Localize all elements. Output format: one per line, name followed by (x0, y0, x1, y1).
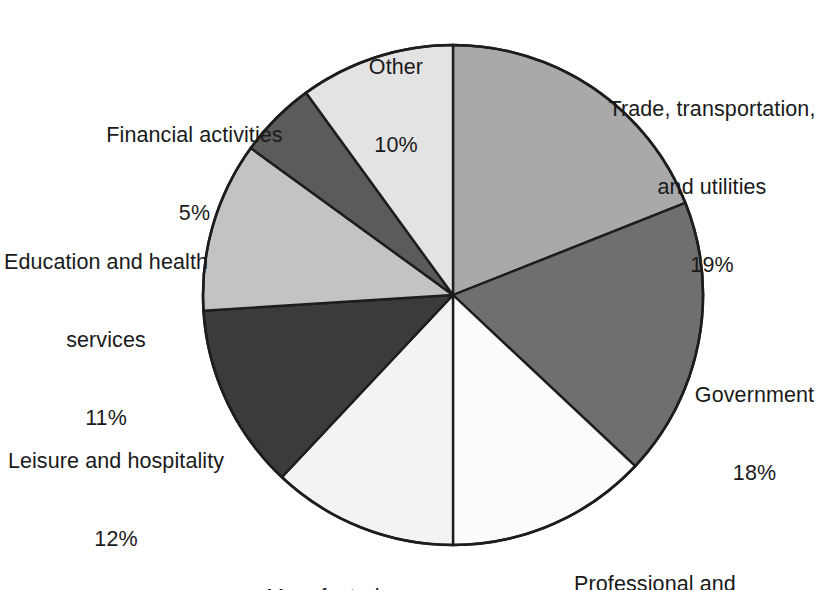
slice-label-trade-name-line1: Trade, transportation, (596, 96, 828, 122)
slice-label-trade-value: 19% (596, 252, 828, 278)
slice-label-education-value: 11% (0, 405, 212, 431)
slice-label-manufacturing-name: Manufacturing (218, 584, 452, 590)
slice-label-other-value: 10% (296, 132, 496, 158)
slice-label-government: Government 18% (680, 330, 829, 538)
slice-label-government-name: Government (680, 382, 829, 408)
slice-label-professional-name-line1: Professional and (540, 571, 770, 590)
slice-label-professional: Professional and business services 13% (540, 519, 770, 590)
slice-label-education-name-line2: services (0, 327, 212, 353)
slice-label-trade-name-line2: and utilities (596, 174, 828, 200)
pie-chart: Other 10% Trade, transportation, and uti… (0, 0, 829, 590)
slice-label-other-name: Other (296, 54, 496, 80)
slice-label-financial: Financial activities 5% (82, 70, 307, 278)
slice-label-government-value: 18% (680, 460, 829, 486)
slice-label-leisure-value: 12% (0, 526, 232, 552)
slice-label-trade: Trade, transportation, and utilities 19% (596, 44, 828, 330)
slice-label-financial-value: 5% (82, 200, 307, 226)
slice-label-manufacturing: Manufacturing 12% (218, 532, 452, 590)
slice-label-financial-name: Financial activities (82, 122, 307, 148)
slice-label-other: Other 10% (296, 2, 496, 210)
